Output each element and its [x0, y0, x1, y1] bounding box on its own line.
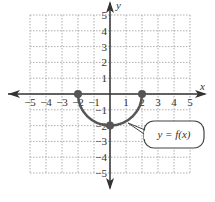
x-axis-label: x	[199, 80, 205, 92]
y-tick-label: −4	[95, 151, 107, 163]
x-tick-label: 5	[187, 96, 193, 108]
x-tick-label: 3	[155, 96, 161, 108]
function-callout: y = f(x)	[128, 121, 204, 148]
point-neg2-0	[74, 90, 82, 98]
y-tick-label: 4	[102, 25, 108, 37]
x-tick-label: 1	[123, 96, 129, 108]
y-axis-label: y	[115, 0, 121, 11]
y-tick-label: 2	[102, 56, 108, 68]
x-tick-label: −4	[40, 96, 52, 108]
axes: x y	[8, 0, 207, 190]
y-tick-label: −5	[95, 167, 107, 179]
y-tick-label: 5	[102, 9, 108, 21]
y-tick-label: 3	[102, 41, 108, 53]
x-tick-label: −3	[56, 96, 68, 108]
point-2-0	[138, 90, 146, 98]
y-tick-label: 1	[102, 72, 108, 84]
point-0-neg2	[106, 122, 114, 130]
x-tick-label: −5	[24, 96, 36, 108]
x-tick-label: 4	[171, 96, 177, 108]
y-tick-label: −3	[95, 135, 107, 147]
function-graph: x y −5−4−3−2−11234554321−1−2−3−4−5 y = f…	[0, 0, 215, 202]
y-tick-label: −1	[95, 104, 107, 116]
callout-label: y = f(x)	[156, 128, 190, 141]
